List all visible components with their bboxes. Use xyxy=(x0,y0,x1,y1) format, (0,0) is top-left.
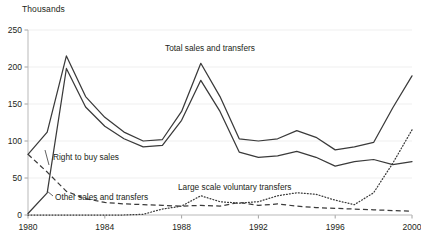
y-tick-label: 50 xyxy=(13,173,23,183)
label-leader-line xyxy=(45,150,49,165)
y-tick-label: 0 xyxy=(17,210,22,220)
y-tick-label: 200 xyxy=(8,62,22,72)
x-tick-label: 1980 xyxy=(19,222,38,232)
line-chart-plot: 050100150200250 198019841988199219962000… xyxy=(0,0,421,245)
x-axis-ticks-group: 198019841988199219962000 xyxy=(19,215,421,232)
x-tick-label: 1992 xyxy=(249,222,268,232)
y-tick-label: 150 xyxy=(8,99,22,109)
series-label-right-to-buy-sales: Right to buy sales xyxy=(53,152,119,162)
series-line-large-scale-voluntary-transfers xyxy=(28,130,412,215)
series-label-total-sales-and-transfers: Total sales and transfers xyxy=(165,43,255,53)
y-tick-label: 100 xyxy=(8,136,22,146)
y-axis-ticks-group: 050100150200250 xyxy=(8,25,28,220)
x-tick-label: 1984 xyxy=(95,222,114,232)
y-tick-label: 250 xyxy=(8,25,22,35)
x-tick-label: 1988 xyxy=(172,222,191,232)
x-tick-label: 1996 xyxy=(326,222,345,232)
chart-container: Thousands 050100150200250 19801984198819… xyxy=(0,0,421,245)
x-tick-label: 2000 xyxy=(403,222,421,232)
series-label-other-sales-and-transfers: Other sales and transfers xyxy=(55,192,148,202)
label-leader-line xyxy=(47,191,53,196)
series-line-total-sales-and-transfers xyxy=(28,56,412,154)
series-label-large-scale-voluntary-transfers: Large scale voluntary transfers xyxy=(178,182,291,192)
